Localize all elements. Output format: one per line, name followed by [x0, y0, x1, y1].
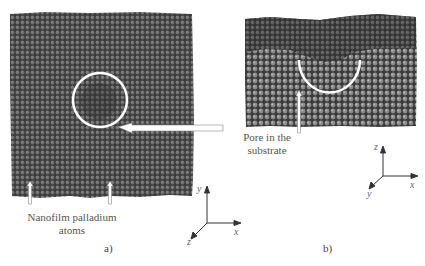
pore-annotation: Pore in the substrate	[227, 131, 307, 157]
nanofilm-annotation-line1: Nanofilm palladium	[12, 211, 132, 224]
nanofilm-annotation: Nanofilm palladium atoms	[12, 211, 132, 237]
axis-label-y-b: y	[367, 188, 371, 199]
axis-label-y-a: y	[197, 183, 201, 194]
panel-b-label: b)	[323, 242, 332, 254]
axis-label-z-a: z	[187, 236, 191, 247]
panel-b-atom-block	[245, 14, 417, 127]
axis-label-z-b: z	[374, 141, 378, 152]
panel-a-atom-slab	[10, 12, 194, 198]
axis-label-x-a: x	[234, 226, 238, 237]
nanofilm-annotation-line2: atoms	[12, 224, 132, 237]
axis-label-x-b: x	[410, 179, 414, 190]
pore-annotation-line2: substrate	[227, 144, 307, 157]
panel-a-label: a)	[104, 242, 113, 254]
pore-annotation-line1: Pore in the	[227, 131, 307, 144]
